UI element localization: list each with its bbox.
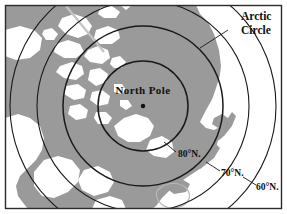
polar-map-figure: North Pole Arctic Circle 80°N. 70°N. 60°… — [0, 0, 287, 214]
map-canvas: North Pole Arctic Circle 80°N. 70°N. 60°… — [0, 0, 287, 214]
north-pole-dot — [141, 104, 145, 108]
arctic-circle-label-line1: Arctic — [241, 10, 271, 22]
arctic-circle-label-line2: Circle — [241, 24, 271, 36]
latitude-label-80n: 80°N. — [178, 149, 201, 159]
north-pole-label: North Pole — [115, 84, 170, 96]
latitude-label-70n: 70°N. — [221, 168, 244, 178]
latitude-label-60n: 60°N. — [256, 182, 279, 192]
